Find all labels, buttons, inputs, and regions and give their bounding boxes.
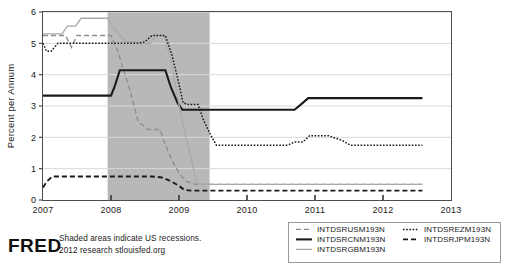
legend-label-INTDSRGBM193N: INTDSRGBM193N: [317, 245, 386, 254]
y-axis-tick-label: 5: [31, 39, 36, 49]
x-axis-tick-label: 2008: [100, 205, 121, 215]
x-axis-tick-label: 2013: [440, 205, 461, 215]
fred-wordmark: FRED: [8, 235, 62, 256]
recession-footnote: Shaded areas indicate US recessions.: [59, 234, 201, 243]
y-axis-tick-label: 6: [31, 7, 36, 17]
y-axis-tick-label: 2: [31, 133, 36, 143]
y-axis-tick-label: 3: [31, 101, 36, 111]
x-axis-tick-label: 2007: [32, 205, 53, 215]
legend-label-INTDSRCNM193N: INTDSRCNM193N: [317, 235, 386, 244]
y-axis-tick-label: 4: [31, 70, 36, 80]
fred-interest-rate-chart: 0123456 2007200820092010201120122013 Per…: [0, 0, 505, 269]
y-axis-title: Percent per Annum: [5, 64, 16, 149]
legend-label-INTDSREZM193N: INTDSREZM193N: [424, 225, 491, 234]
source-footnote: 2012 research stlouisfed.org: [59, 246, 165, 255]
x-axis-tick-label: 2010: [236, 205, 257, 215]
legend-label-INTDSRUSM193N: INTDSRUSM193N: [317, 225, 385, 234]
legend-label-INTDSRJPM193N: INTDSRJPM193N: [424, 235, 490, 244]
chart-legend: INTDSRUSM193NINTDSRCNM193NINTDSRGBM193NI…: [289, 223, 501, 263]
y-axis-tick-label: 0: [31, 195, 36, 205]
x-axis-tick-label: 2009: [168, 205, 189, 215]
x-axis-tick-label: 2012: [372, 205, 393, 215]
y-axis-tick-label: 1: [31, 164, 36, 174]
x-axis-tick-label: 2011: [305, 205, 326, 215]
